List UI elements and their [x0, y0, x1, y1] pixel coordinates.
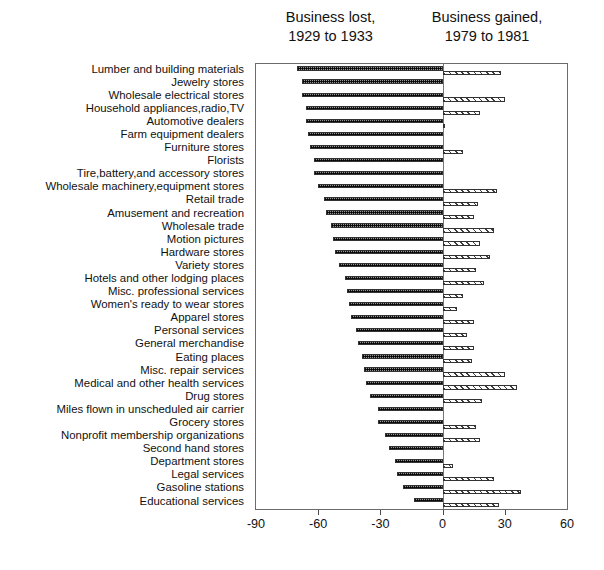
bar-business-lost	[297, 66, 442, 70]
bar-business-gained	[443, 228, 495, 232]
chart-root: Business lost, 1929 to 1933 Business gai…	[0, 0, 604, 570]
bar-business-lost	[347, 289, 442, 293]
bar-business-lost	[310, 145, 443, 149]
bar-business-lost	[331, 223, 443, 227]
bar-business-lost	[326, 210, 442, 214]
bar-business-gained	[443, 255, 491, 259]
category-label: Miles flown in unscheduled air carrier	[57, 403, 244, 415]
bar-business-lost	[314, 158, 443, 162]
bar-business-gained	[443, 490, 522, 494]
bar-business-gained	[443, 124, 445, 128]
category-label: Women's ready to wear stores	[91, 298, 244, 310]
axis-tick-label: 30	[498, 517, 512, 531]
bar-business-gained	[443, 202, 478, 206]
category-label: Educational services	[140, 495, 244, 507]
header-business-lost-line1: Business lost,	[253, 8, 408, 27]
category-label: Hardware stores	[160, 246, 244, 258]
category-label: Wholesale trade	[162, 220, 244, 232]
column-headers: Business lost, 1929 to 1933 Business gai…	[255, 8, 568, 56]
bar-business-gained	[443, 268, 476, 272]
bars-container	[256, 64, 567, 509]
category-label: Wholesale machinery,equipment stores	[45, 180, 244, 192]
bar-business-lost	[351, 315, 442, 319]
category-label: Retail trade	[186, 193, 244, 205]
bar-business-lost	[318, 184, 442, 188]
bar-business-lost	[364, 367, 443, 371]
bar-business-lost	[366, 381, 443, 385]
value-axis: -90-60-3003060	[255, 510, 568, 540]
bar-business-lost	[339, 263, 443, 267]
bar-business-gained	[443, 241, 480, 245]
bar-business-lost	[397, 472, 443, 476]
axis-tick-label: 0	[439, 517, 446, 531]
category-label: Jewelry stores	[171, 76, 244, 88]
bar-business-gained	[443, 438, 480, 442]
category-label: Misc. professional services	[108, 285, 244, 297]
bar-business-gained	[443, 372, 505, 376]
bar-business-lost	[306, 106, 443, 110]
bar-business-lost	[356, 328, 443, 332]
category-label: Gasoline stations	[157, 481, 244, 493]
bar-business-lost	[302, 93, 443, 97]
bar-business-lost	[389, 446, 443, 450]
category-label: Hotels and other lodging places	[84, 272, 244, 284]
category-label: Amusement and recreation	[107, 207, 244, 219]
header-business-gained-line2: 1979 to 1981	[407, 27, 567, 46]
category-label: Medical and other health services	[74, 377, 244, 389]
category-label: Department stores	[150, 455, 244, 467]
bar-business-gained	[443, 399, 482, 403]
bar-business-gained	[443, 307, 458, 311]
bar-business-gained	[443, 111, 480, 115]
bar-business-lost	[306, 119, 443, 123]
bar-business-lost	[335, 250, 443, 254]
bar-business-lost	[324, 197, 442, 201]
category-label: Legal services	[171, 468, 244, 480]
category-label: Household appliances,radio,TV	[86, 102, 244, 114]
bar-business-gained	[443, 346, 474, 350]
bar-business-gained	[443, 71, 501, 75]
bar-business-gained	[443, 215, 474, 219]
bar-business-lost	[314, 171, 443, 175]
category-axis-labels: Lumber and building materialsJewelry sto…	[0, 63, 250, 510]
bar-business-gained	[443, 333, 468, 337]
bar-business-gained	[443, 281, 484, 285]
bar-business-lost	[403, 485, 442, 489]
category-label: Tire,battery,and accessory stores	[77, 167, 244, 179]
category-label: Motion pictures	[167, 233, 244, 245]
header-business-gained-line1: Business gained,	[407, 8, 567, 27]
axis-tick-label: 60	[560, 517, 574, 531]
axis-tick-label: -30	[371, 517, 389, 531]
category-label: Personal services	[154, 324, 244, 336]
category-label: Second hand stores	[143, 442, 244, 454]
category-label: Florists	[207, 154, 244, 166]
bar-business-gained	[443, 189, 497, 193]
bar-business-lost	[378, 420, 442, 424]
bar-business-lost	[308, 132, 443, 136]
bar-business-lost	[362, 354, 443, 358]
bar-business-lost	[345, 276, 442, 280]
category-label: Misc. repair services	[140, 364, 244, 376]
category-label: Variety stores	[175, 259, 244, 271]
category-label: Wholesale electrical stores	[109, 89, 244, 101]
bar-business-lost	[370, 394, 443, 398]
category-label: Apparel stores	[171, 311, 244, 323]
axis-tick-label: -60	[309, 517, 327, 531]
header-business-lost: Business lost, 1929 to 1933	[253, 8, 408, 46]
header-business-lost-line2: 1929 to 1933	[253, 27, 408, 46]
category-label: Drug stores	[185, 390, 244, 402]
bar-business-gained	[443, 385, 518, 389]
axis-tick	[443, 510, 444, 515]
bar-business-lost	[349, 302, 442, 306]
category-label: Automotive dealers	[146, 115, 244, 127]
axis-tick-label: -90	[247, 517, 265, 531]
bar-business-gained	[443, 320, 474, 324]
bar-business-lost	[302, 79, 443, 83]
zero-line	[443, 64, 444, 509]
category-label: Eating places	[176, 351, 244, 363]
bar-business-gained	[443, 359, 472, 363]
bar-business-lost	[358, 341, 443, 345]
plot-area	[255, 63, 568, 510]
bar-business-gained	[443, 425, 476, 429]
axis-tick	[380, 510, 381, 515]
bar-business-lost	[378, 407, 442, 411]
